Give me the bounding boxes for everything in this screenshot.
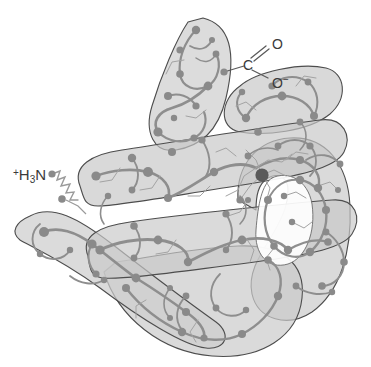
n-terminus-h: H (19, 166, 30, 183)
residue-node (278, 92, 287, 101)
residue-node (183, 293, 190, 300)
residue-node (105, 193, 111, 199)
residue-node (239, 89, 245, 95)
residue-node (297, 119, 304, 126)
residue-node (192, 102, 199, 109)
residue-node (204, 82, 213, 91)
residue-node (306, 142, 313, 149)
residue-node (213, 305, 220, 312)
residue-node (184, 258, 192, 266)
residue-node (132, 274, 141, 283)
residue-node (198, 136, 205, 143)
protein-diagram-canvas (0, 0, 371, 367)
residue-node (274, 292, 282, 300)
n-terminus-n: N (35, 166, 46, 183)
residue-node (37, 251, 43, 257)
c-terminus-carbonyl-oxygen-label: O (272, 37, 283, 51)
residue-node (245, 197, 251, 203)
c-terminus-anion-oxygen-label: O− (272, 75, 289, 90)
heme-iron-node (255, 168, 268, 181)
residue-node (176, 46, 183, 53)
anion-charge-symbol: − (283, 74, 289, 85)
residue-node (131, 255, 138, 262)
residue-node (335, 187, 341, 193)
residue-node (289, 219, 295, 225)
residue-node (128, 154, 136, 162)
residue-node (210, 168, 218, 176)
residue-node (190, 134, 197, 141)
residue-node (238, 236, 247, 245)
residue-node (192, 26, 200, 34)
protein-structure-figure: +H3N C O O− (0, 0, 371, 367)
residue-node (167, 315, 173, 321)
residue-node (92, 270, 99, 277)
residue-node (167, 285, 173, 291)
residue-node (39, 227, 49, 237)
residue-node (87, 239, 96, 248)
residue-node (209, 37, 215, 43)
residue-node (143, 167, 153, 177)
residue-node (310, 112, 318, 120)
residue-node (91, 171, 100, 180)
residue-node (242, 114, 250, 122)
residue-node (337, 161, 344, 168)
residue-node (95, 245, 104, 254)
residue-node (154, 236, 163, 245)
residue-node (164, 92, 172, 100)
residue-node (329, 289, 335, 295)
residue-node (222, 210, 229, 217)
residue-node (284, 246, 292, 254)
residue-node (129, 187, 136, 194)
anion-oxygen-symbol: O (272, 75, 283, 91)
residue-node (281, 193, 287, 199)
residue-node (130, 222, 138, 230)
residue-node (305, 79, 312, 86)
residue-node (178, 328, 186, 336)
residue-node (223, 247, 229, 253)
residue-node (306, 248, 314, 256)
residue-node (101, 277, 107, 283)
n-terminus-node-2 (58, 195, 66, 203)
residue-node (318, 282, 326, 290)
residue-node (264, 196, 272, 204)
residue-node (182, 308, 190, 316)
residue-node (340, 258, 348, 266)
residue-node (324, 238, 332, 246)
n-terminus-label: +H3N (13, 167, 46, 185)
residue-node (164, 194, 172, 202)
residue-node (153, 127, 162, 136)
residue-node (176, 70, 184, 78)
residue-node (270, 242, 278, 250)
residue-node (296, 156, 304, 164)
residue-node (296, 176, 304, 184)
residue-node (243, 307, 249, 313)
n-terminus-node (48, 170, 55, 177)
residue-node (275, 143, 282, 150)
residue-node (314, 184, 322, 192)
c-terminus-node (220, 68, 227, 75)
residue-node (171, 115, 177, 121)
residue-node (293, 283, 300, 290)
residue-node (168, 148, 176, 156)
residue-node (122, 284, 130, 292)
residue-node (254, 128, 262, 136)
residue-node (264, 256, 272, 264)
residue-node (213, 51, 220, 58)
residue-node (67, 247, 73, 253)
residue-node (245, 153, 252, 160)
residue-node (200, 334, 207, 341)
residue-node (236, 196, 243, 203)
residue-node (322, 206, 330, 214)
residue-node (323, 229, 330, 236)
c-terminus-carbon-label: C (243, 58, 253, 72)
residue-node (238, 330, 246, 338)
